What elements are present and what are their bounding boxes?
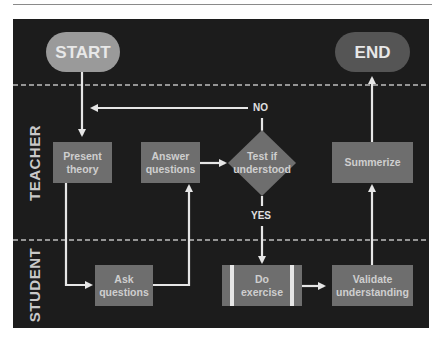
node-test-understood: Test if understood	[232, 148, 292, 178]
start-terminal: START	[46, 32, 120, 72]
node-answer-questions: Answer questions	[141, 142, 200, 183]
node-validate-understanding: Validate understanding	[332, 265, 413, 306]
edge-label-yes: YES	[251, 210, 271, 221]
node-summerize: Summerize	[332, 142, 413, 183]
lane-label-teacher: TEACHER	[26, 123, 44, 203]
end-terminal: END	[335, 32, 410, 72]
lane-label-student: STUDENT	[26, 245, 44, 325]
edge-label-no: NO	[253, 102, 268, 113]
node-do-exercise: Do exercise	[236, 265, 288, 306]
node-ask-questions: Ask questions	[95, 265, 153, 306]
node-present-theory: Present theory	[53, 142, 112, 183]
